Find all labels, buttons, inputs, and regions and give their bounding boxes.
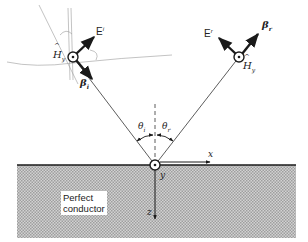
reflected-H-label: Hy [243, 61, 255, 73]
incident-E-superscript: i [103, 26, 104, 32]
conductor-label-line2: conductor [63, 203, 105, 214]
incident-E-text: E [96, 26, 103, 37]
incident-beta-text: β [80, 77, 87, 88]
reflected-H-text: H [243, 61, 252, 71]
reflected-E-superscript: r [211, 28, 213, 34]
reflected-E-vector [219, 38, 236, 54]
diagram-canvas [0, 0, 308, 242]
z-axis-label: z [147, 208, 152, 217]
reflected-beta-text: β [262, 19, 269, 30]
reflected-ray [155, 57, 239, 165]
theta-r-subscript: r [167, 126, 170, 133]
theta-r-label: θr [162, 122, 170, 133]
perfect-conductor-label: Perfect conductor [61, 191, 107, 215]
incident-beta-label: βi [80, 78, 89, 90]
incident-E-label: Ei [96, 26, 104, 37]
theta-i-label: θi [138, 122, 145, 133]
reflected-E-text: E [204, 28, 211, 39]
theta-r-arc [157, 135, 173, 141]
incident-H-label: Hy [53, 50, 65, 62]
reflected-beta-label: βr [262, 20, 272, 32]
reflected-H-subscript: y [252, 66, 255, 73]
theta-i-arc [137, 135, 153, 141]
theta-i-subscript: i [143, 126, 145, 133]
reflection-diagram: Ei Hy βi Er βr Hy θi θr x y z Perfect co… [0, 0, 308, 242]
reflected-E-label: Er [204, 28, 213, 39]
reflected-beta-vector [242, 34, 258, 54]
incident-ray [73, 57, 155, 165]
incident-H-subscript: y [62, 55, 65, 62]
incident-E-vector [76, 37, 94, 54]
sketch-lines [7, 5, 172, 84]
reflected-beta-subscript: r [269, 25, 272, 32]
y-axis-label: y [160, 171, 165, 180]
perfect-conductor-region [17, 165, 296, 238]
incident-H-text: H [53, 50, 62, 60]
incident-beta-subscript: i [87, 83, 89, 90]
x-axis-label: x [208, 150, 213, 159]
conductor-label-line1: Perfect [63, 192, 105, 203]
